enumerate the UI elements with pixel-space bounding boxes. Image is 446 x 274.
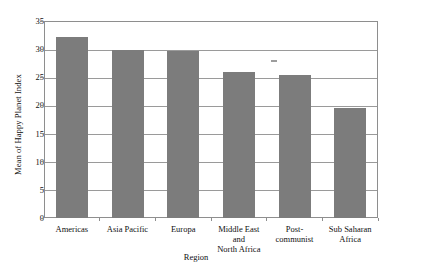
x-axis-tick-label-line: Sub Saharan <box>322 224 378 234</box>
x-axis-tick-label-line: Europa <box>155 224 211 234</box>
scan-artifact <box>271 60 277 62</box>
figure-container: Mean of Happy Planet Index 0510152025303… <box>0 0 446 274</box>
x-axis-tick-mark <box>322 218 323 221</box>
bar <box>167 51 199 218</box>
x-axis-tick-mark <box>211 218 212 221</box>
x-axis-tick-label-line: Middle East and <box>211 224 267 244</box>
bar <box>334 108 366 218</box>
x-axis-tick-label: Europa <box>155 224 211 234</box>
main-bar-chart-panel: Mean of Happy Planet Index 0510152025303… <box>0 0 392 274</box>
x-axis-tick-label: Sub SaharanAfrica <box>322 224 378 244</box>
x-axis-tick-group <box>44 218 378 222</box>
bar <box>223 72 255 218</box>
x-axis-tick-label-line: Americas <box>44 224 100 234</box>
bar <box>56 37 88 218</box>
x-axis-tick-label-line: Asia Pacific <box>100 224 156 234</box>
x-axis-title: Region <box>0 252 392 262</box>
x-axis-tick-mark <box>378 218 379 221</box>
x-axis-tick-label: Asia Pacific <box>100 224 156 234</box>
x-axis-tick-label-line: communist <box>267 234 323 244</box>
x-axis-tick-mark <box>99 218 100 221</box>
bar <box>112 50 144 218</box>
x-axis-tick-label: Americas <box>44 224 100 234</box>
x-axis-tick-label-line: Africa <box>322 234 378 244</box>
x-axis-label-group: AmericasAsia PacificEuropaMiddle East an… <box>44 224 378 250</box>
x-axis-tick-label: Post-communist <box>267 224 323 244</box>
x-axis-tick-mark <box>155 218 156 221</box>
x-axis-tick-label-line: Post- <box>267 224 323 234</box>
bar <box>279 75 311 218</box>
bars-layer <box>44 21 378 218</box>
x-axis-tick-mark <box>266 218 267 221</box>
y-axis-tick-group: 05101520253035 <box>10 21 44 218</box>
secondary-axis-panel: Mean of Happy Planet Index 0510152025 <box>392 0 446 274</box>
x-axis-tick-label: Middle East andNorth Africa <box>211 224 267 254</box>
